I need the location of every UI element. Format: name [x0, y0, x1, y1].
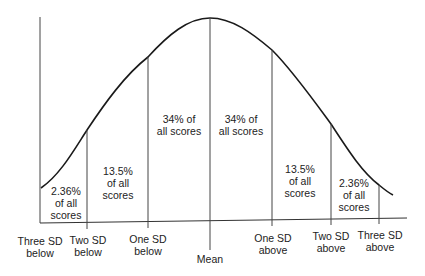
tick-text: Three SD [18, 235, 63, 247]
tick-text: above [254, 244, 291, 256]
region-label-2sd-above: 13.5% of all scores [285, 163, 316, 199]
region-text: of all [339, 189, 370, 201]
tick-text: Two SD [313, 230, 350, 242]
x-axis [40, 218, 407, 223]
region-percent: 13.5% [103, 165, 134, 177]
region-label-2sd-below: 13.5% of all scores [103, 165, 134, 201]
region-text: scores [339, 201, 370, 213]
region-text: scores [103, 189, 134, 201]
tick-label-two-sd-below: Two SD below [70, 234, 107, 258]
region-label-1sd-above: 34% of all scores [219, 113, 263, 137]
tick-text: below [70, 246, 107, 258]
region-percent: 13.5% [285, 163, 316, 175]
tick-label-mean: Mean [197, 253, 223, 265]
tick-text: below [18, 247, 63, 259]
region-percent: 34% of [219, 113, 263, 125]
region-percent: 2.36% [51, 185, 82, 197]
tick-text: Mean [197, 253, 223, 265]
tick-text: above [358, 241, 403, 253]
region-percent: 34% of [157, 113, 201, 125]
region-label-1sd-below: 34% of all scores [157, 113, 201, 137]
region-text: scores [51, 209, 82, 221]
tick-label-one-sd-above: One SD above [254, 232, 291, 256]
tick-label-one-sd-below: One SD below [129, 233, 166, 257]
region-label-3sd-below: 2.36% of all scores [51, 185, 82, 221]
tick-label-two-sd-above: Two SD above [313, 230, 350, 254]
region-text: all scores [157, 125, 201, 137]
tick-text: Two SD [70, 234, 107, 246]
region-text: scores [285, 187, 316, 199]
tick-label-three-sd-above: Three SD above [358, 229, 403, 253]
tick-label-three-sd-below: Three SD below [18, 235, 63, 259]
region-text: of all [51, 197, 82, 209]
region-label-3sd-above: 2.36% of all scores [339, 177, 370, 213]
tick-text: Three SD [358, 229, 403, 241]
region-text: of all [103, 177, 134, 189]
region-text: of all [285, 175, 316, 187]
bell-curve [41, 18, 393, 195]
region-percent: 2.36% [339, 177, 370, 189]
tick-text: One SD [129, 233, 166, 245]
region-text: all scores [219, 125, 263, 137]
tick-text: above [313, 242, 350, 254]
tick-text: One SD [254, 232, 291, 244]
tick-text: below [129, 245, 166, 257]
